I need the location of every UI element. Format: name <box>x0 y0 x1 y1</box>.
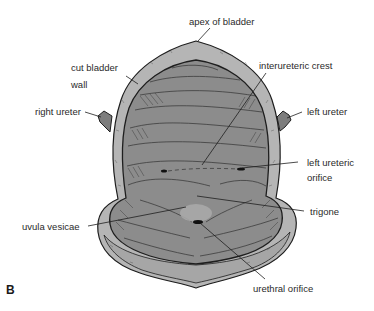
label-urethral-orifice: urethral orifice <box>253 282 313 295</box>
right-ureteric-orifice-shape <box>161 170 167 173</box>
label-cut-bladder-wall-line1: cut bladder <box>71 61 118 74</box>
label-interureteric-crest: interureteric crest <box>259 59 332 72</box>
label-uvula-vesicae: uvula vesicae <box>22 220 80 233</box>
label-right-ureter: right ureter <box>35 105 81 118</box>
left-ureter-shape <box>277 111 291 131</box>
urethral-orifice-shape <box>193 220 203 224</box>
label-apex-of-bladder: apex of bladder <box>189 15 255 28</box>
panel-letter: B <box>6 283 15 297</box>
uvula-vesicae-shape <box>180 204 212 222</box>
label-left-ureteric-orifice-line2: orifice <box>307 171 332 184</box>
label-left-ureteric-orifice-line1: left ureteric <box>307 156 354 169</box>
label-cut-bladder-wall-line2: wall <box>71 78 87 91</box>
right-ureter-shape <box>98 111 112 132</box>
leader-apex <box>198 28 210 41</box>
bladder-diagram: apex of bladder cut bladder wall interur… <box>0 0 374 311</box>
label-trigone: trigone <box>310 205 339 218</box>
leader-right-ureter <box>85 112 101 117</box>
label-left-ureter: left ureter <box>307 105 347 118</box>
